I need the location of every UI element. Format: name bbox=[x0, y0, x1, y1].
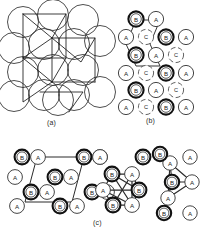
figure-root: BAACBABACACBABACACBA BABAABABABAABA BAAB… bbox=[0, 0, 200, 237]
site-node-a bbox=[183, 206, 197, 220]
site-node-a bbox=[148, 82, 163, 97]
site-node-a bbox=[10, 199, 25, 214]
site-node-a bbox=[178, 99, 193, 114]
site-node-a bbox=[161, 191, 175, 205]
panel-b-site-lattice: BAACBABACACBABACACBA bbox=[118, 11, 193, 114]
site-node-a bbox=[178, 65, 193, 80]
site-node-c-dashed bbox=[138, 29, 153, 44]
site-node-a bbox=[40, 185, 55, 200]
site-node-a bbox=[125, 198, 140, 213]
site-node-c-dashed bbox=[168, 82, 183, 97]
unit-cell-edge bbox=[23, 14, 52, 58]
site-node-a bbox=[31, 150, 46, 165]
site-node-a bbox=[185, 175, 199, 189]
panel-c-caption: (c) bbox=[93, 219, 102, 226]
site-node-a bbox=[70, 199, 85, 214]
site-node-a bbox=[125, 167, 140, 182]
site-node-c-dashed bbox=[138, 99, 153, 114]
site-node-a bbox=[148, 11, 163, 26]
site-node-a bbox=[118, 65, 133, 80]
site-node-a bbox=[64, 170, 79, 185]
crystal-structure-figure: BAACBABACACBABACACBA BABAABABABAABA BAAB… bbox=[0, 0, 200, 237]
site-node-c-dashed bbox=[138, 65, 153, 80]
panel-b-caption: (b) bbox=[146, 117, 155, 124]
site-node-a bbox=[148, 47, 163, 62]
unit-cell-edge bbox=[40, 92, 83, 112]
site-node-a bbox=[118, 29, 133, 44]
site-node-a bbox=[96, 183, 111, 198]
panel-a-caption: (a) bbox=[47, 119, 56, 126]
panel-c-stray-nodes: AB bbox=[93, 150, 151, 165]
site-node-a bbox=[8, 170, 23, 185]
site-node-a bbox=[118, 99, 133, 114]
site-node-a bbox=[178, 29, 193, 44]
unit-cell-edge bbox=[23, 14, 66, 38]
unit-cell-edge bbox=[23, 58, 66, 82]
packed-sphere bbox=[38, 0, 69, 31]
site-node-c-dashed bbox=[168, 47, 183, 62]
site-node-a bbox=[93, 150, 108, 165]
site-node-a bbox=[183, 150, 197, 164]
